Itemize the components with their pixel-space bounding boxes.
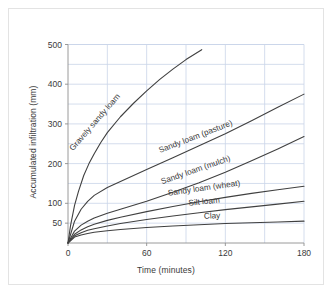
- curve-labels: Gravely sandy loamSandy loam (pasture)Sa…: [68, 92, 241, 221]
- curve-label: Sandy loam (wheat): [167, 179, 241, 198]
- y-axis-title: Accumulated infiltration (mm): [28, 72, 38, 212]
- x-tick-label: 180: [297, 248, 311, 258]
- y-tick-label: 300: [48, 119, 62, 129]
- y-tick-label: 50: [53, 218, 63, 228]
- x-axis-title: Time (minutes): [0, 265, 332, 275]
- y-tick-label: 100: [48, 198, 62, 208]
- chart-figure: 50100200300400500060120180 Gravely sandy…: [0, 0, 332, 293]
- curve-label: Silt loam: [188, 195, 220, 207]
- infiltration-line-chart: 50100200300400500060120180 Gravely sandy…: [9, 9, 325, 286]
- chart-frame: 50100200300400500060120180 Gravely sandy…: [8, 8, 324, 285]
- x-tick-label: 120: [218, 248, 232, 258]
- y-tick-label: 200: [48, 159, 62, 169]
- y-tick-label: 500: [48, 40, 62, 50]
- x-tick-label: 60: [142, 248, 152, 258]
- x-tick-label: 0: [66, 248, 71, 258]
- y-tick-label: 400: [48, 79, 62, 89]
- curve-label: Clay: [204, 211, 222, 221]
